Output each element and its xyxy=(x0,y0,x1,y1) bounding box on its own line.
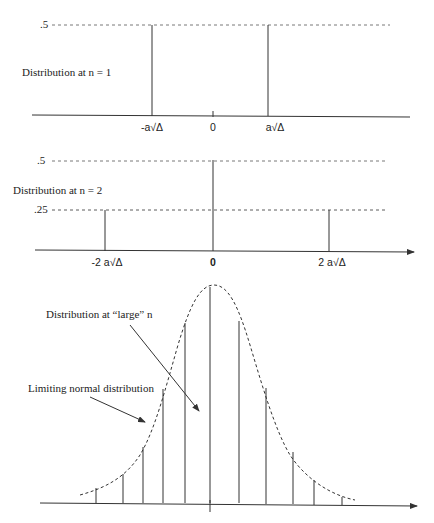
x-axis xyxy=(40,503,417,506)
tick-label: 0 xyxy=(210,256,216,268)
label-large-n: Distribution at “large” n xyxy=(46,308,153,320)
label-limiting-normal: Limiting normal distribution xyxy=(28,382,154,394)
y-level-half: .5 xyxy=(40,18,49,30)
arrow-limiting-normal xyxy=(90,397,145,422)
panel-large-n: Distribution at “large” n Limiting norma… xyxy=(28,285,417,512)
x-axis xyxy=(35,250,414,252)
tick-label: -2 a√Δ xyxy=(92,256,123,268)
tick-label: a√Δ xyxy=(266,121,285,133)
diagram: .5 Distribution at n = 1 -a√Δ 0 a√Δ .5 D… xyxy=(0,0,434,523)
panel-label: Distribution at n = 1 xyxy=(22,66,111,78)
tick-label: 0 xyxy=(210,121,216,133)
tick-label: -a√Δ xyxy=(141,121,163,133)
arrow-large-n xyxy=(130,325,199,411)
panel-n2: .5 Distribution at n = 2 .25 -2 a√Δ 0 2 … xyxy=(13,154,414,268)
y-level-quarter: .25 xyxy=(34,203,48,215)
x-axis xyxy=(32,115,410,117)
panel-label: Distribution at n = 2 xyxy=(13,184,102,196)
tick-label: 2 a√Δ xyxy=(318,256,345,268)
panel-n1: .5 Distribution at n = 1 -a√Δ 0 a√Δ xyxy=(22,18,410,133)
y-level-half: .5 xyxy=(37,154,46,166)
